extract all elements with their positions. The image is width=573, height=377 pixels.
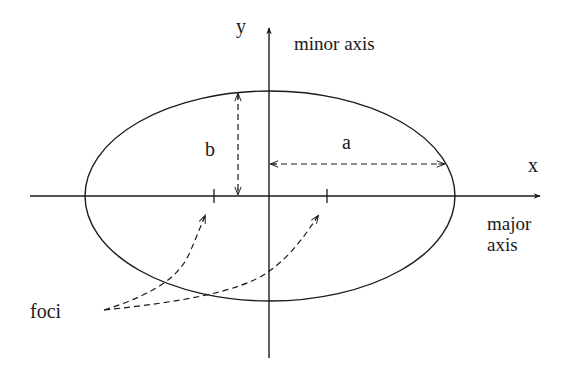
semi-minor-label: b bbox=[205, 138, 215, 160]
y-axis-label: y bbox=[236, 15, 246, 38]
minor-axis-label: minor axis bbox=[294, 33, 375, 54]
foci-pointer-left bbox=[104, 216, 205, 310]
ellipse-diagram: y minor axis x major axis b a foci bbox=[0, 0, 573, 377]
major-axis-label-line1: major bbox=[487, 213, 532, 234]
x-axis-label: x bbox=[528, 154, 538, 176]
major-axis-label-line2: axis bbox=[487, 234, 518, 255]
semi-major-label: a bbox=[342, 131, 351, 153]
foci-label: foci bbox=[30, 300, 62, 322]
